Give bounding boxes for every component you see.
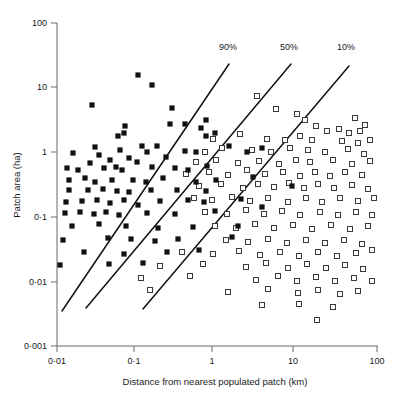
- data-point-open: [211, 252, 216, 257]
- data-point-filled: [148, 187, 153, 192]
- data-point-open: [280, 209, 285, 214]
- data-point-open: [295, 279, 300, 284]
- data-point-filled: [62, 210, 67, 215]
- x-tick-label-0-1: 0·1: [127, 356, 140, 366]
- data-point-filled: [64, 165, 69, 170]
- data-point-open: [244, 208, 249, 213]
- data-point-open: [343, 263, 348, 268]
- data-point-open: [288, 146, 293, 151]
- data-point-filled: [75, 167, 80, 172]
- data-point-filled: [101, 165, 106, 170]
- data-point-open: [188, 274, 193, 279]
- data-point-open: [258, 253, 263, 258]
- data-point-open: [286, 266, 291, 271]
- data-point-filled: [212, 130, 217, 135]
- data-point-filled: [66, 187, 71, 192]
- data-point-open: [316, 250, 321, 255]
- data-point-open: [291, 223, 296, 228]
- data-point-open: [363, 123, 368, 128]
- data-point-open: [253, 222, 258, 227]
- data-point-filled: [105, 235, 110, 240]
- data-point-open: [207, 170, 212, 175]
- data-point-open: [257, 159, 262, 164]
- data-point-open: [276, 274, 281, 279]
- data-point-open: [360, 242, 365, 247]
- data-point-open: [263, 172, 268, 177]
- data-point-filled: [157, 198, 162, 203]
- data-point-filled: [140, 260, 145, 265]
- data-point-open: [266, 196, 271, 201]
- data-point-open: [244, 265, 249, 270]
- data-point-filled: [154, 143, 159, 148]
- data-point-open: [224, 238, 229, 243]
- data-point-open: [236, 161, 241, 166]
- data-point-open: [180, 250, 185, 255]
- data-point-filled: [89, 102, 94, 107]
- data-point-filled: [87, 160, 92, 165]
- data-point-filled: [126, 189, 131, 194]
- data-point-open: [194, 160, 199, 165]
- data-point-open: [370, 279, 375, 284]
- data-point-open: [328, 174, 333, 179]
- data-point-open: [265, 137, 270, 142]
- data-point-open: [296, 291, 301, 296]
- x-tick-label-0-01: 0·01: [48, 356, 66, 366]
- data-point-open: [370, 248, 375, 253]
- data-point-filled: [79, 198, 84, 203]
- data-point-filled: [130, 177, 135, 182]
- data-point-filled: [149, 164, 154, 169]
- data-point-open: [254, 278, 259, 283]
- data-point-open: [372, 196, 377, 201]
- data-point-open: [226, 290, 231, 295]
- data-point-filled: [139, 143, 144, 148]
- data-point-filled: [66, 177, 71, 182]
- data-point-open: [333, 279, 338, 284]
- data-point-filled: [203, 117, 208, 122]
- data-point-open: [260, 303, 265, 308]
- x-axis-title: Distance from nearest populated patch (k…: [123, 376, 308, 387]
- data-point-open: [237, 249, 242, 254]
- data-point-open: [356, 199, 361, 204]
- data-point-filled: [94, 197, 99, 202]
- data-point-open: [336, 213, 341, 218]
- data-point-open: [248, 199, 253, 204]
- data-point-filled: [149, 82, 154, 87]
- data-point-open: [368, 159, 373, 164]
- data-point-filled: [77, 209, 82, 214]
- data-point-open: [323, 241, 328, 246]
- data-point-filled: [128, 236, 133, 241]
- data-point-open: [302, 186, 307, 191]
- data-point-open: [347, 131, 352, 136]
- data-point-open: [277, 162, 282, 167]
- data-point-filled: [152, 238, 157, 243]
- data-point-open: [272, 226, 277, 231]
- data-point-open: [219, 182, 224, 187]
- data-point-filled: [226, 143, 231, 148]
- data-point-filled: [57, 262, 62, 267]
- data-point-filled: [144, 149, 149, 154]
- data-point-open: [283, 138, 288, 143]
- data-point-filled: [115, 133, 120, 138]
- isocline-label-10: 10%: [337, 42, 355, 52]
- data-point-open: [353, 116, 358, 121]
- data-point-filled: [122, 123, 127, 128]
- data-point-filled: [182, 148, 187, 153]
- data-point-open: [360, 173, 365, 178]
- data-point-open: [278, 250, 283, 255]
- data-point-open: [358, 129, 363, 134]
- data-point-filled: [164, 249, 169, 254]
- data-point-open: [350, 183, 355, 188]
- data-point-filled: [119, 167, 124, 172]
- scatter-plot-figure: 100 10 1 0·1 0·01 0·001 0·01 0·1 1 10 10…: [0, 0, 402, 401]
- data-point-filled: [116, 212, 121, 217]
- data-point-open: [305, 262, 310, 267]
- data-point-open: [342, 238, 347, 243]
- data-point-open: [310, 138, 315, 143]
- data-point-filled: [92, 179, 97, 184]
- y-tick-label-1: 1: [42, 147, 47, 157]
- data-point-open: [148, 288, 153, 293]
- data-point-open: [192, 196, 197, 201]
- data-point-open: [255, 94, 260, 99]
- data-point-open: [318, 210, 323, 215]
- data-point-open: [158, 264, 163, 269]
